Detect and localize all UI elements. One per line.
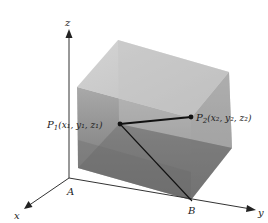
z-axis-label: z [64, 17, 71, 28]
p1-coords: (x₁, y₁, z₁) [58, 120, 103, 130]
distance-diagram: z x y P1(x₁, y₁, z₁) P2(x₂, y₂, z₂) A B [0, 0, 268, 223]
y-axis-label: y [257, 207, 264, 218]
point-p2 [189, 115, 194, 120]
y-axis-arrow-icon [246, 205, 256, 212]
x-axis-arrow-icon [24, 201, 33, 209]
p2-coords: (x₂, y₂, z₂) [207, 113, 252, 123]
x-axis [28, 178, 69, 206]
point-p1 [118, 122, 123, 127]
point-a-label: A [66, 186, 74, 197]
x-axis-label: x [14, 210, 20, 221]
point-b-label: B [187, 205, 195, 216]
z-axis-arrow-icon [66, 29, 73, 38]
